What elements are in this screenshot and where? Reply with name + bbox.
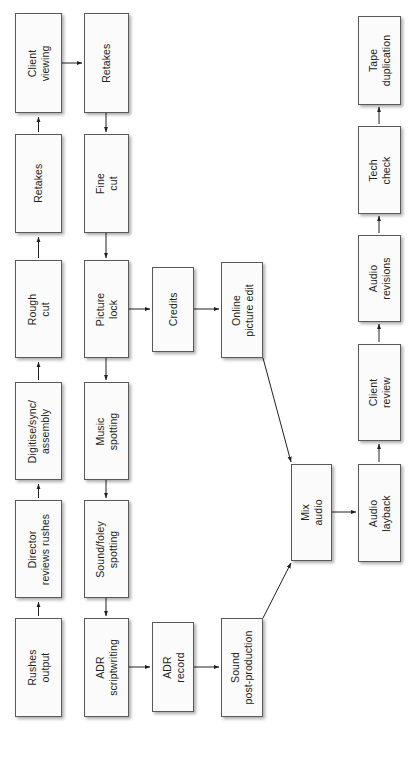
- node-rough-cut[interactable]: Rough cut: [15, 260, 62, 358]
- node-label: Picture lock: [94, 288, 119, 331]
- edge-e-soundpost-to-mix: [263, 563, 291, 618]
- node-label: Fine cut: [94, 162, 119, 205]
- node-director-reviews[interactable]: Director reviews rushes: [15, 500, 62, 598]
- node-client-review[interactable]: Client review: [358, 344, 401, 441]
- node-label: Mix audio: [299, 493, 324, 532]
- node-picture-lock[interactable]: Picture lock: [84, 260, 129, 358]
- node-label: Client viewing: [26, 41, 51, 86]
- node-audio-layback[interactable]: Audio layback: [358, 464, 401, 562]
- node-sound-post[interactable]: Sound post-production: [221, 618, 263, 717]
- node-label: Tape duplication: [367, 35, 392, 86]
- node-audio-revisions[interactable]: Audio revisions: [358, 235, 401, 322]
- node-label: Sound post-production: [230, 631, 255, 705]
- node-music-spotting[interactable]: Music spotting: [84, 382, 129, 480]
- node-label: Rough cut: [26, 287, 51, 332]
- node-adr-record[interactable]: ADR record: [152, 622, 194, 712]
- node-label: Online picture edit: [230, 284, 255, 337]
- node-label: Retakes: [32, 161, 45, 206]
- node-adr-scriptwriting[interactable]: ADR scriptwriting: [84, 618, 129, 717]
- node-rushes-output[interactable]: Rushes output: [15, 618, 62, 717]
- node-client-viewing[interactable]: Client viewing: [15, 13, 62, 113]
- node-label: Audio revisions: [367, 257, 392, 299]
- node-digitise-sync[interactable]: Digitise/sync/ assembly: [15, 382, 62, 480]
- flowchart-canvas: Rushes outputDirector reviews rushesDigi…: [0, 0, 408, 757]
- node-fine-cut[interactable]: Fine cut: [84, 134, 129, 233]
- node-label: Client review: [367, 372, 392, 413]
- node-credits[interactable]: Credits: [152, 267, 194, 352]
- node-label: Music spotting: [94, 410, 119, 453]
- node-label: Credits: [167, 290, 180, 330]
- node-label: ADR scriptwriting: [94, 639, 119, 696]
- node-label: Retakes: [100, 42, 113, 85]
- node-retakes-1[interactable]: Retakes: [15, 134, 62, 233]
- node-label: Audio layback: [367, 493, 392, 534]
- node-label: Director reviews rushes: [26, 513, 51, 584]
- node-tape-duplication[interactable]: Tape duplication: [358, 16, 401, 105]
- node-tech-check[interactable]: Tech check: [358, 126, 401, 214]
- node-label: Sound/foley spotting: [94, 521, 119, 578]
- node-online-picture-edit[interactable]: Online picture edit: [221, 262, 263, 358]
- node-sound-foley-spotting[interactable]: Sound/foley spotting: [84, 500, 129, 598]
- node-mix-audio[interactable]: Mix audio: [291, 464, 332, 561]
- edge-e-online-to-mix: [263, 358, 291, 462]
- node-label: Rushes output: [26, 645, 51, 690]
- node-label: ADR record: [161, 647, 186, 687]
- node-label: Digitise/sync/ assembly: [26, 399, 51, 462]
- node-retakes-2[interactable]: Retakes: [84, 13, 129, 113]
- node-label: Tech check: [367, 150, 392, 191]
